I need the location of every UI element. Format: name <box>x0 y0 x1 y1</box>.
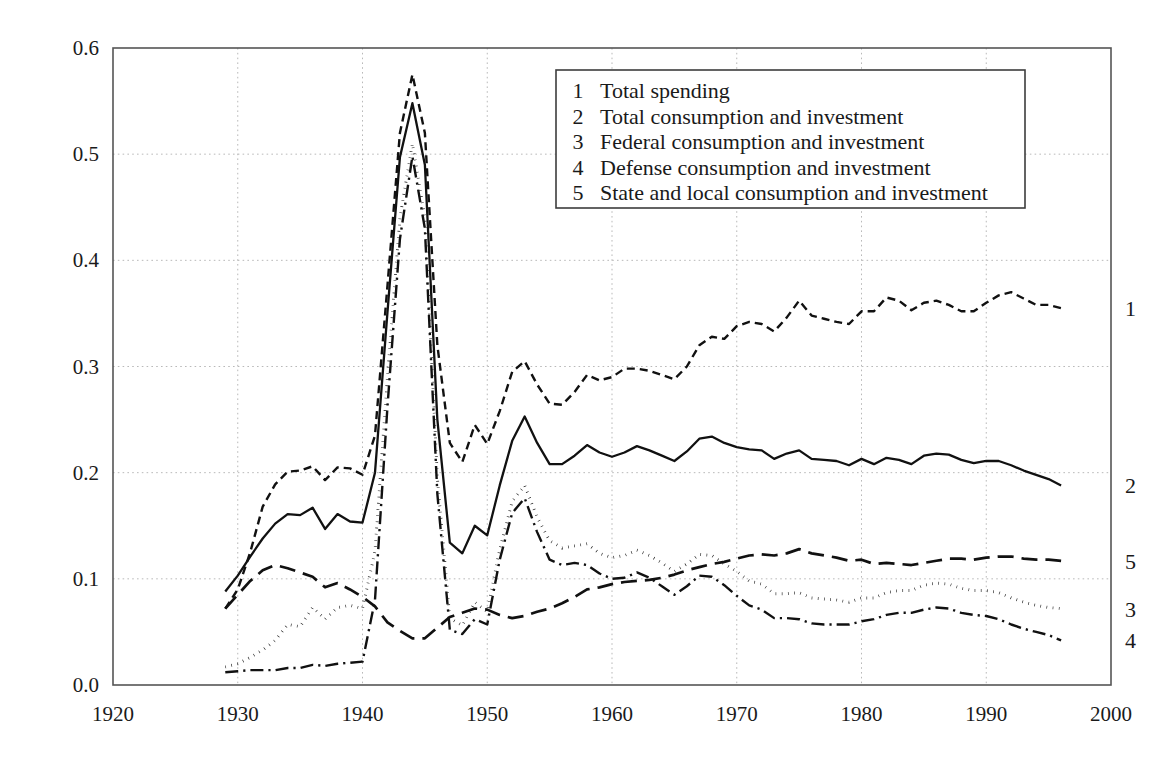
legend-item-number-3: 3 <box>573 129 584 154</box>
chart-legend: 1Total spending2Total consumption and in… <box>556 70 1025 208</box>
x-tick-label: 1970 <box>716 702 758 726</box>
x-tick-label: 1940 <box>342 702 384 726</box>
y-tick-label: 0.0 <box>73 673 99 697</box>
series-end-label-5: 5 <box>1125 549 1136 574</box>
legend-item-label-3: Federal consumption and investment <box>600 129 924 154</box>
legend-item-label-5: State and local consumption and investme… <box>600 180 988 205</box>
x-tick-label: 1980 <box>841 702 883 726</box>
x-tick-label: 2000 <box>1090 702 1132 726</box>
legend-item-number-4: 4 <box>573 155 584 180</box>
y-tick-label: 0.5 <box>73 142 99 166</box>
x-tick-label: 1930 <box>217 702 259 726</box>
legend-item-number-5: 5 <box>573 180 584 205</box>
y-tick-label: 0.6 <box>73 36 99 60</box>
series-end-label-1: 1 <box>1125 296 1136 321</box>
y-axis-tick-labels: 0.00.10.20.30.40.50.6 <box>73 36 100 697</box>
legend-item-label-2: Total consumption and investment <box>600 104 903 129</box>
legend-item-number-1: 1 <box>573 78 584 103</box>
y-tick-label: 0.2 <box>73 461 99 485</box>
series-end-label-3: 3 <box>1125 597 1136 622</box>
legend-item-label-4: Defense consumption and investment <box>600 155 931 180</box>
legend-item-number-2: 2 <box>573 104 584 129</box>
x-tick-label: 1960 <box>591 702 633 726</box>
y-tick-label: 0.1 <box>73 567 99 591</box>
series-end-label-4: 4 <box>1125 628 1136 653</box>
series-line-5 <box>225 549 1061 638</box>
series-end-labels: 12345 <box>1125 296 1136 653</box>
x-tick-label: 1990 <box>965 702 1007 726</box>
line-chart: 0.00.10.20.30.40.50.6 192019301940195019… <box>0 0 1163 765</box>
x-tick-label: 1920 <box>92 702 134 726</box>
x-tick-label: 1950 <box>466 702 508 726</box>
y-tick-label: 0.4 <box>73 248 100 272</box>
series-line-4 <box>225 156 1061 672</box>
x-axis-tick-labels: 192019301940195019601970198019902000 <box>92 702 1132 726</box>
y-tick-label: 0.3 <box>73 355 99 379</box>
series-end-label-2: 2 <box>1125 473 1136 498</box>
chart-container: 0.00.10.20.30.40.50.6 192019301940195019… <box>0 0 1163 765</box>
legend-item-label-1: Total spending <box>600 78 730 103</box>
